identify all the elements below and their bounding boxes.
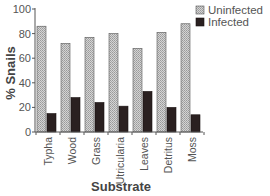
bar-infected-typha [47,114,56,132]
bar-infected-leaves [143,91,152,132]
bar-uninfected-leaves [133,48,142,132]
x-tick-label: Grass [90,137,102,165]
x-axis-title: Substrate [91,179,151,194]
bar-chart: 020406080100 TyphaWoodGrassUtriculariaLe… [0,0,270,196]
x-tick-label: Typha [42,137,54,166]
x-tick-label: Moss [186,137,198,162]
bar-uninfected-utricularia [109,34,118,132]
y-tick-label: 60 [19,52,31,64]
y-tick-label: 20 [19,101,31,113]
bar-infected-grass [95,102,104,132]
bar-uninfected-detritus [157,32,166,132]
x-tick-label: Utricularia [114,137,126,184]
plot-area [37,24,200,132]
bar-uninfected-typha [37,26,46,132]
legend-label-uninfected: Uninfected [208,4,263,16]
bar-infected-moss [191,115,200,132]
bar-uninfected-grass [85,37,94,132]
bar-uninfected-wood [61,43,70,132]
legend-label-infected: Infected [208,16,249,28]
legend-swatch-infected [196,18,204,26]
y-tick-label: 0 [25,126,31,138]
bar-infected-detritus [167,107,176,132]
bar-uninfected-moss [181,24,190,132]
x-tick-label: Detritus [162,137,174,173]
bar-infected-utricularia [119,106,128,132]
legend: UninfectedInfected [196,4,263,28]
y-axis-title: % Snails [3,46,18,99]
x-tick-label: Wood [66,137,78,164]
y-tick-label: 80 [19,28,31,40]
y-tick-label: 40 [19,77,31,89]
y-tick-label: 100 [13,3,31,15]
x-tick-label: Leaves [138,137,150,171]
legend-swatch-uninfected [196,6,204,14]
bar-infected-wood [71,98,80,132]
x-axis: TyphaWoodGrassUtriculariaLeavesDetritusM… [35,132,204,184]
